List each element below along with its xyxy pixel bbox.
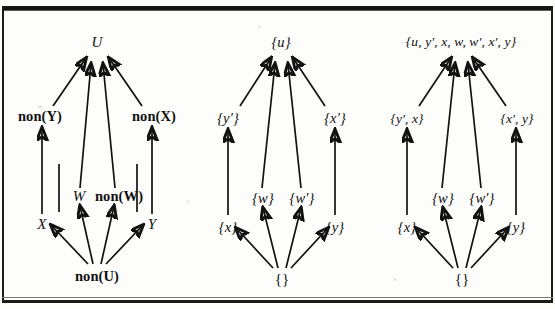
edge-mid-right-to-top xyxy=(468,64,481,188)
diagram-closure-set-lattice: {u, y′, x, w, w′, x′, y} {y′, x} {x′, y}… xyxy=(367,12,552,297)
node-mid-left: {w} xyxy=(252,191,274,206)
node-bottom: {} xyxy=(455,272,470,287)
node-upper-right: {x′} xyxy=(324,111,346,126)
top-rule-shadow xyxy=(2,10,553,11)
node-mid-right: non(W) xyxy=(95,189,143,204)
figure-root: U non(Y) non(X) W non(W) X Y non(U) xyxy=(0,0,555,309)
node-lower-right: Y xyxy=(148,217,156,232)
node-lower-left: {x} xyxy=(398,220,416,235)
node-bottom: non(U) xyxy=(75,269,119,284)
node-lower-right: {y} xyxy=(326,220,344,235)
edge-bottom-to-lower-right xyxy=(106,225,143,264)
node-lower-left: X xyxy=(37,217,46,232)
edge-upper-right-to-top xyxy=(109,58,142,106)
edge-bottom-to-mid-right xyxy=(286,208,301,268)
edge-mid-right-to-top xyxy=(288,64,301,188)
edge-bottom-to-mid-left xyxy=(263,208,278,268)
node-upper-right: non(X) xyxy=(132,109,176,124)
edge-bottom-to-lower-left xyxy=(416,228,453,268)
node-bottom: {} xyxy=(275,272,290,287)
edge-mid-left-to-top xyxy=(262,64,275,188)
node-top: U xyxy=(92,35,103,50)
edge-upper-left-to-top xyxy=(419,58,451,106)
bottom-rule xyxy=(2,300,553,303)
edge-bottom-to-mid-left xyxy=(80,206,93,264)
diagram-singleton-set-lattice: {u} {y′} {x′} {w} {w′} {x} {y} {} xyxy=(187,12,372,297)
edges-closure-set-lattice xyxy=(367,12,552,297)
edge-upper-right-to-top xyxy=(293,58,325,106)
edge-upper-right-to-top xyxy=(473,58,506,106)
edge-bottom-to-lower-left xyxy=(236,228,273,268)
bottom-rule-shadow xyxy=(2,297,553,298)
edge-bottom-to-mid-left xyxy=(443,208,458,268)
edge-mid-left-to-top xyxy=(442,64,455,188)
edge-bottom-to-mid-right xyxy=(466,208,481,268)
edge-mid-left-to-top xyxy=(80,64,91,188)
node-mid-left: W xyxy=(73,189,86,204)
edge-upper-left-to-top xyxy=(53,58,86,106)
node-upper-left: {y′, x} xyxy=(390,112,423,126)
node-upper-left: {y′} xyxy=(217,111,239,126)
node-upper-right: {x′, y} xyxy=(500,112,533,126)
node-upper-left: non(Y) xyxy=(18,109,62,124)
node-mid-left: {w} xyxy=(432,191,454,206)
node-top: {u, y′, x, w, w′, x′, y} xyxy=(406,35,516,49)
node-mid-right: {w′} xyxy=(470,191,495,206)
edge-upper-left-to-top xyxy=(240,58,271,106)
edge-bottom-to-mid-right xyxy=(101,206,114,264)
node-top: {u} xyxy=(271,35,290,50)
edge-bottom-to-lower-left xyxy=(51,225,88,264)
diagram-predicate-lattice: U non(Y) non(X) W non(W) X Y non(U) xyxy=(2,12,187,297)
edge-bottom-to-lower-right xyxy=(291,228,328,268)
edge-bottom-to-lower-right xyxy=(471,228,508,268)
node-lower-right: {y} xyxy=(507,220,525,235)
edges-predicate-lattice xyxy=(2,12,187,297)
edges-singleton-set-lattice xyxy=(187,12,372,297)
node-mid-right: {w′} xyxy=(290,191,315,206)
node-lower-left: {x} xyxy=(219,220,237,235)
edge-mid-right-to-top xyxy=(103,64,115,188)
